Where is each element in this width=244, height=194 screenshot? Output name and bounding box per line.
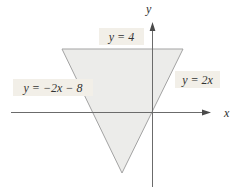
label-text: y = 4 [108, 30, 134, 44]
y-axis-label: y [145, 2, 152, 16]
label-text: y = −2x − 8 [23, 81, 83, 95]
figure-canvas: x y y = 4 y = −2x − 8 y = 2x [0, 0, 244, 194]
label-line-y-equals-2x: y = 2x [175, 71, 220, 88]
shaded-triangle-region [62, 49, 183, 173]
x-axis-arrowhead-icon [202, 110, 211, 116]
diagram-svg: x y y = 4 y = −2x − 8 y = 2x [0, 0, 244, 194]
label-line-y-equals-4: y = 4 [99, 28, 144, 45]
label-line-y-equals-minus-2x-minus-8: y = −2x − 8 [13, 79, 93, 96]
y-axis-arrowhead-icon [150, 22, 156, 31]
x-axis-label: x [223, 106, 230, 120]
label-text: y = 2x [181, 73, 213, 87]
